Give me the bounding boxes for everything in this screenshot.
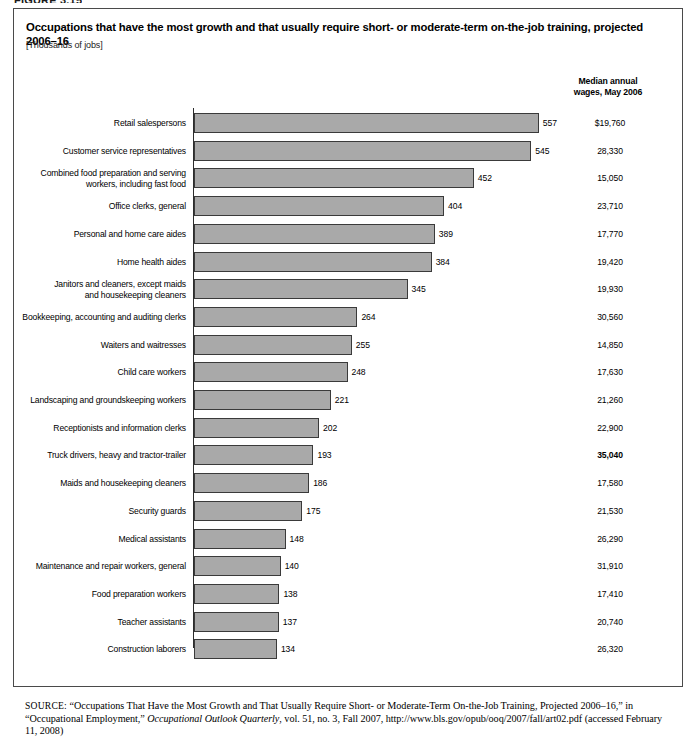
bar-value-label: 389: [439, 229, 453, 239]
bar: [194, 390, 331, 410]
occupation-label-line: Landscaping and groundskeeping workers: [14, 395, 186, 406]
median-wage-value: 17,580: [550, 478, 670, 488]
occupation-label: Customer service representatives: [14, 145, 186, 156]
occupation-label-line: Medical assistants: [14, 533, 186, 544]
bar: [194, 196, 444, 216]
median-wage-value: 21,260: [550, 395, 670, 405]
occupation-label-line: Personal and home care aides: [14, 229, 186, 240]
median-wage-value: 21,530: [550, 506, 670, 516]
occupation-label-line: Customer service representatives: [14, 145, 186, 156]
chart-row: Landscaping and groundskeeping workers22…: [14, 386, 684, 414]
occupation-label: Receptionists and information clerks: [14, 422, 186, 433]
chart-row: Child care workers24817,630: [14, 358, 684, 386]
bar: [194, 335, 352, 355]
chart-row: Medical assistants14826,290: [14, 525, 684, 553]
bar: [194, 501, 302, 521]
median-wage-value: 31,910: [550, 561, 670, 571]
wages-column-header: Median annual wages, May 2006: [548, 76, 668, 98]
occupation-label: Landscaping and groundskeeping workers: [14, 395, 186, 406]
bar: [194, 252, 432, 272]
occupation-label-line: and housekeeping cleaners: [14, 289, 186, 300]
figure-frame: Occupations that have the most growth an…: [13, 8, 683, 687]
bar-value-label: 175: [306, 506, 320, 516]
median-wage-value: 19,930: [550, 284, 670, 294]
median-wage-value: 26,320: [550, 644, 670, 654]
bar: [194, 529, 286, 549]
source-journal-title: Occupational Outlook Quarterly: [147, 713, 279, 724]
median-wage-value: $19,760: [550, 118, 670, 128]
occupation-label-line: Combined food preparation and serving: [14, 168, 186, 179]
bar-value-label: 248: [352, 367, 366, 377]
occupation-label-line: Retail salespersons: [14, 118, 186, 129]
chart-row: Personal and home care aides38917,770: [14, 220, 684, 248]
occupation-label-line: Teacher assistants: [14, 616, 186, 627]
bar-value-label: 148: [290, 534, 304, 544]
occupation-label-line: Truck drivers, heavy and tractor-trailer: [14, 450, 186, 461]
occupation-label-line: Receptionists and information clerks: [14, 422, 186, 433]
occupation-label: Home health aides: [14, 256, 186, 267]
chart-row: Waiters and waitresses25514,850: [14, 331, 684, 359]
bar: [194, 418, 319, 438]
chart-row: Maintenance and repair workers, general1…: [14, 552, 684, 580]
occupation-label: Maids and housekeeping cleaners: [14, 478, 186, 489]
bar: [194, 556, 281, 576]
chart-row: Teacher assistants13720,740: [14, 608, 684, 636]
occupation-label-line: workers, including fast food: [14, 178, 186, 189]
bar-value-label: 137: [283, 617, 297, 627]
occupation-label-line: Child care workers: [14, 367, 186, 378]
chart-row: Receptionists and information clerks2022…: [14, 414, 684, 442]
bar-value-label: 452: [478, 173, 492, 183]
chart-row: Janitors and cleaners, except maidsand h…: [14, 275, 684, 303]
bar-value-label: 255: [356, 340, 370, 350]
bar-value-label: 345: [412, 284, 426, 294]
source-label: SOURCE:: [25, 700, 67, 711]
median-wage-value: 19,420: [550, 257, 670, 267]
bar-value-label: 384: [436, 257, 450, 267]
occupation-label-line: Bookkeeping, accounting and auditing cle…: [14, 312, 186, 323]
chart-row: Home health aides38419,420: [14, 248, 684, 276]
median-wage-value: 26,290: [550, 534, 670, 544]
median-wage-value: 23,710: [550, 201, 670, 211]
bar-value-label: 221: [335, 395, 349, 405]
median-wage-value: 15,050: [550, 173, 670, 183]
wages-column-header-line2: wages, May 2006: [548, 87, 668, 98]
wages-column-header-line1: Median annual: [548, 76, 668, 87]
median-wage-value: 20,740: [550, 617, 670, 627]
chart-row: Construction laborers13426,320: [14, 635, 684, 663]
chart-row: Food preparation workers13817,410: [14, 580, 684, 608]
bar: [194, 639, 277, 659]
occupation-label: Janitors and cleaners, except maidsand h…: [14, 279, 186, 300]
chart-row: Combined food preparation and servingwor…: [14, 164, 684, 192]
chart-row: Retail salespersons557$19,760: [14, 109, 684, 137]
occupation-label: Construction laborers: [14, 644, 186, 655]
chart-title: Occupations that have the most growth an…: [26, 20, 672, 48]
bar: [194, 113, 539, 133]
median-wage-value: 30,560: [550, 312, 670, 322]
occupation-label-line: Waiters and waitresses: [14, 339, 186, 350]
occupation-label: Food preparation workers: [14, 589, 186, 600]
bar: [194, 279, 408, 299]
occupation-label: Maintenance and repair workers, general: [14, 561, 186, 572]
chart-units-label: [Thousands of jobs]: [26, 40, 103, 50]
occupation-label: Retail salespersons: [14, 118, 186, 129]
figure-label: FIGURE 3.15: [14, 0, 82, 3]
bar: [194, 473, 309, 493]
bar-value-label: 404: [448, 201, 462, 211]
source-note: SOURCE: “Occupations That Have the Most …: [25, 700, 675, 738]
chart-row: Truck drivers, heavy and tractor-trailer…: [14, 441, 684, 469]
median-wage-value: 17,410: [550, 589, 670, 599]
median-wage-value: 28,330: [550, 146, 670, 156]
occupation-label-line: Food preparation workers: [14, 589, 186, 600]
median-wage-value: 17,770: [550, 229, 670, 239]
occupation-label: Combined food preparation and servingwor…: [14, 168, 186, 189]
chart-row: Security guards17521,530: [14, 497, 684, 525]
occupation-label: Medical assistants: [14, 533, 186, 544]
bar: [194, 584, 279, 604]
occupation-label: Waiters and waitresses: [14, 339, 186, 350]
bar-value-label: 186: [313, 478, 327, 488]
bar: [194, 307, 357, 327]
occupation-label-line: Security guards: [14, 506, 186, 517]
occupation-label: Truck drivers, heavy and tractor-trailer: [14, 450, 186, 461]
bar-value-label: 138: [283, 589, 297, 599]
chart-row: Customer service representatives54528,33…: [14, 137, 684, 165]
